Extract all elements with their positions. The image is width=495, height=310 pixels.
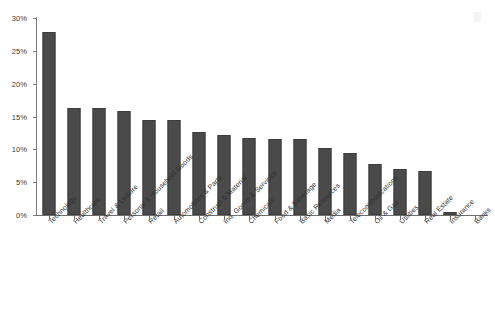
x-axis-tick-mark (124, 216, 125, 220)
x-axis-tick-mark (400, 216, 401, 220)
x-axis-tick-mark (350, 216, 351, 220)
x-axis-tick-mark (74, 216, 75, 220)
bar-slot (463, 18, 488, 215)
bar (343, 153, 356, 215)
bar-chart: 0%5%10%15%20%25%30% TechnologyHealthcare… (0, 0, 495, 310)
bar-slot (86, 18, 111, 215)
scan-artifact-icon (474, 12, 481, 22)
x-axis-tick-mark (174, 216, 175, 220)
x-axis-tick-mark (199, 216, 200, 220)
bar-slot (438, 18, 463, 215)
y-axis-tick-label: 30% (12, 14, 27, 23)
y-axis-tick-label: 15% (12, 112, 27, 121)
y-axis-tick-label: 25% (12, 46, 27, 55)
bar (42, 32, 55, 215)
x-axis-tick-mark (149, 216, 150, 220)
y-axis-tick-label: 5% (16, 178, 27, 187)
x-axis-tick-mark (300, 216, 301, 220)
x-axis-tick-mark (99, 216, 100, 220)
x-axis-labels: TechnologyHealthcareTravel & LeisurePers… (36, 216, 488, 310)
bar (419, 171, 432, 215)
x-axis-tick-mark (224, 216, 225, 220)
x-axis-tick-mark (425, 216, 426, 220)
bar-slot (36, 18, 61, 215)
y-axis-tick-label: 20% (12, 79, 27, 88)
y-axis-tick-label: 0% (16, 211, 27, 220)
bar-slot (413, 18, 438, 215)
x-axis-tick-mark (249, 216, 250, 220)
x-axis-tick-mark (450, 216, 451, 220)
x-axis-tick-mark (475, 216, 476, 220)
bar-slot (337, 18, 362, 215)
x-axis-tick-mark (275, 216, 276, 220)
x-axis-tick-mark (49, 216, 50, 220)
x-axis-tick-mark (375, 216, 376, 220)
y-axis: 0%5%10%15%20%25%30% (0, 0, 36, 310)
bar-slot (61, 18, 86, 215)
x-axis-tick-mark (325, 216, 326, 220)
y-axis-tick-label: 10% (12, 145, 27, 154)
